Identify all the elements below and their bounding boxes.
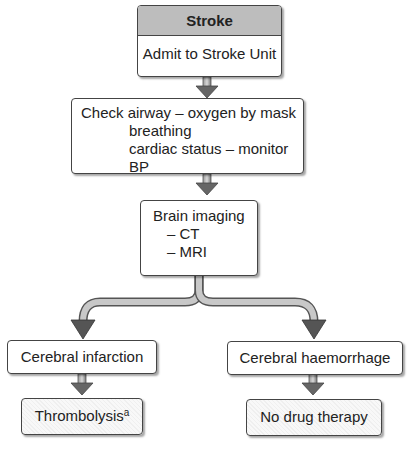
- thrombolysis-label: Thrombolysis: [35, 407, 124, 424]
- brain-imaging-node: Brain imaging – CT – MRI: [140, 200, 258, 276]
- branch-arrows: [83, 276, 314, 322]
- thrombolysis-node: Thrombolysisa: [21, 398, 143, 435]
- arrow-down-icon: [302, 374, 324, 395]
- breathing-text: breathing: [81, 122, 303, 140]
- arrow-down-icon: [196, 77, 218, 98]
- arrow-down-icon: [71, 374, 93, 395]
- cerebral-infarction-label: Cerebral infarction: [21, 348, 144, 365]
- brain-imaging-text: Brain imaging: [153, 207, 257, 225]
- arrow-down-icon: [196, 174, 218, 195]
- no-drug-therapy-label: No drug therapy: [260, 408, 368, 425]
- check-airway-node: Check airway – oxygen by mask breathing …: [71, 98, 304, 174]
- mri-text: – MRI: [153, 243, 257, 261]
- stroke-node: Stroke Admit to Stroke Unit: [137, 5, 282, 77]
- no-drug-therapy-node: No drug therapy: [246, 399, 382, 436]
- cerebral-haemorrhage-label: Cerebral haemorrhage: [240, 349, 391, 366]
- arrow-down-icon: [71, 320, 95, 339]
- ct-text: – CT: [153, 225, 257, 243]
- check-airway-text: Check airway – oxygen by mask: [81, 104, 303, 122]
- cardiac-status-text: cardiac status – monitor BP: [81, 140, 303, 176]
- stroke-title: Stroke: [138, 6, 281, 36]
- cerebral-haemorrhage-node: Cerebral haemorrhage: [227, 341, 403, 375]
- cerebral-infarction-node: Cerebral infarction: [7, 340, 157, 374]
- arrow-down-icon: [302, 320, 326, 339]
- admit-stroke-unit-text: Admit to Stroke Unit: [138, 36, 281, 63]
- footnote-marker: a: [124, 407, 130, 418]
